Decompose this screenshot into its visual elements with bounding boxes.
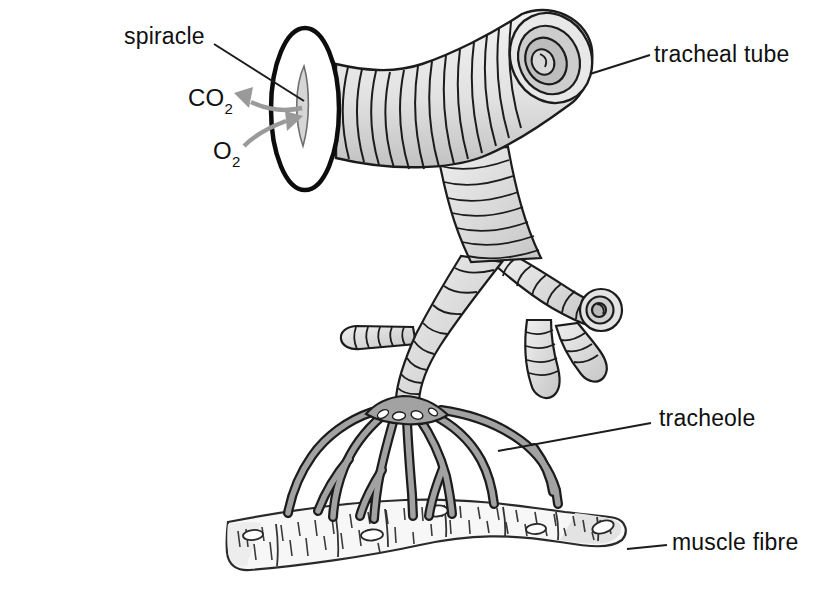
tracheole-label: tracheole xyxy=(659,406,755,430)
co2-label: CO2 xyxy=(188,85,233,115)
o2-symbol: O xyxy=(213,137,232,164)
diagram-canvas xyxy=(0,0,824,598)
diagram-figure: spiracle CO2 O2 tracheal tube tracheole … xyxy=(0,0,824,598)
trachea-stub-branches xyxy=(525,320,606,398)
co2-symbol: CO xyxy=(188,84,224,111)
tracheal-tube-label: tracheal tube xyxy=(654,42,790,66)
muscle-fibre-label: muscle fibre xyxy=(672,530,798,554)
spiracle-label: spiracle xyxy=(124,24,205,48)
coiled-branch-end xyxy=(580,289,622,331)
co2-subscript: 2 xyxy=(224,100,233,117)
o2-subscript: 2 xyxy=(232,153,241,170)
o2-label: O2 xyxy=(213,138,240,168)
co2-arrowhead xyxy=(234,87,253,108)
muscle-fibre-leader-line xyxy=(627,545,667,549)
tracheal-tube-leader-line xyxy=(590,55,650,74)
trachea-branch-cluster xyxy=(341,147,622,401)
trachea-left-stub xyxy=(341,326,416,349)
